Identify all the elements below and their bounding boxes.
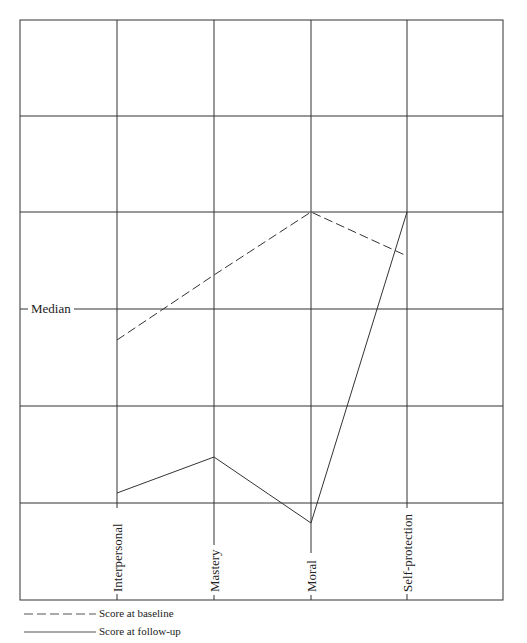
chart-canvas: Interpersonal Mastery Moral Self-protect…: [0, 0, 527, 643]
category-label-backgrounds: [110, 508, 414, 595]
grid: [20, 20, 503, 600]
legend-baseline-label: Score at baseline: [99, 607, 174, 619]
category-label: Moral: [304, 560, 319, 592]
category-label: Interpersonal: [110, 523, 125, 592]
category-label: Self-protection: [400, 514, 415, 592]
series-baseline-line: [117, 212, 407, 340]
plot-border: [20, 20, 503, 600]
category-label: Mastery: [207, 549, 222, 592]
category-labels: Interpersonal Mastery Moral Self-protect…: [110, 514, 415, 592]
legend-followup-label: Score at follow-up: [99, 625, 181, 637]
series-followup-line: [117, 212, 407, 523]
median-label: Median: [28, 301, 74, 317]
